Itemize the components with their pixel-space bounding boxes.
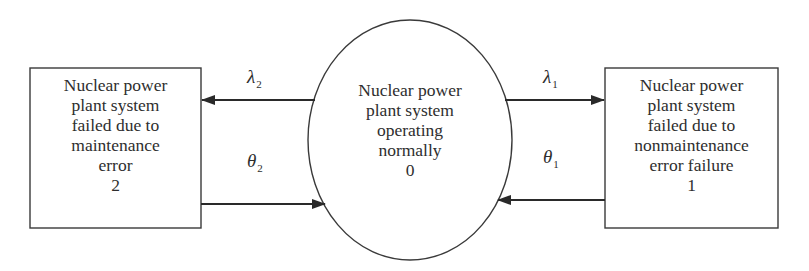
state-0-line: Nuclear power [330,80,490,100]
state-1-line: Nuclear power [605,75,778,95]
lambda2-subscript: 2 [256,78,262,90]
lambda2-symbol: λ [247,66,255,87]
lambda1-label: λ1 [543,66,558,90]
theta2-label: θ2 [247,150,263,174]
state-0-label: Nuclear power plant system operating nor… [330,80,490,180]
state-2-line: Nuclear power [30,75,201,95]
state-2-label: Nuclear power plant system failed due to… [30,75,201,195]
state-1-line: error failure [605,155,778,175]
state-1-number: 1 [605,175,778,195]
state-2-line: plant system [30,95,201,115]
state-1-line: plant system [605,95,778,115]
state-0-line: operating [330,120,490,140]
state-0-number: 0 [330,160,490,180]
theta1-label: θ1 [543,146,559,170]
theta2-subscript: 2 [257,162,263,174]
state-0-line: plant system [330,100,490,120]
state-2-line: error [30,155,201,175]
state-1-label: Nuclear power plant system failed due to… [605,75,778,195]
state-1-line: nonmaintenance [605,135,778,155]
lambda2-label: λ2 [247,66,262,90]
state-2-number: 2 [30,175,201,195]
state-2-line: failed due to [30,115,201,135]
theta1-symbol: θ [543,146,552,167]
lambda1-subscript: 1 [552,78,558,90]
theta2-symbol: θ [247,150,256,171]
state-1-line: failed due to [605,115,778,135]
theta1-subscript: 1 [553,158,559,170]
state-2-line: maintenance [30,135,201,155]
lambda1-symbol: λ [543,66,551,87]
state-0-line: normally [330,140,490,160]
